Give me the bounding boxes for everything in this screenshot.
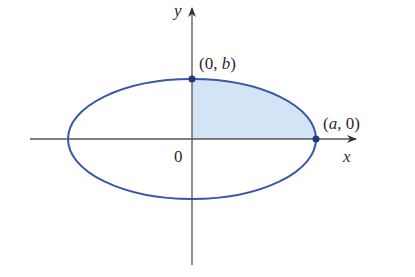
ellipse-diagram: y x 0 (0, b) (a, 0): [0, 0, 415, 277]
top-point-open: (0,: [199, 54, 222, 73]
point-top-0-b: [189, 76, 196, 83]
top-point-var: b: [222, 54, 231, 73]
top-point-label: (0, b): [199, 55, 236, 72]
right-point-label: (a, 0): [323, 115, 360, 132]
shaded-quadrant-region: [192, 79, 316, 139]
right-point-var: a: [329, 114, 338, 133]
y-axis-label: y: [174, 2, 182, 19]
point-right-a-0: [313, 136, 320, 143]
top-point-close: ): [230, 54, 236, 73]
diagram-canvas: [0, 0, 415, 277]
origin-label: 0: [174, 148, 183, 165]
right-point-close: , 0): [337, 114, 360, 133]
x-axis-label: x: [343, 148, 351, 165]
